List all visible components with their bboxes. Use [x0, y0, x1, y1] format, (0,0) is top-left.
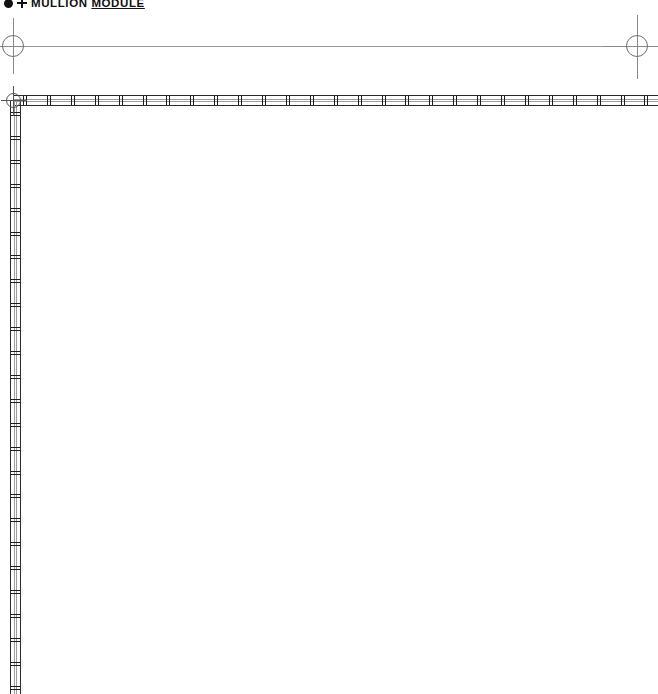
mullion-tick-mark: [11, 590, 20, 594]
mullion-tick-mark: [405, 96, 409, 105]
mullion-tick-mark: [11, 638, 20, 642]
mullion-tick-mark: [11, 518, 20, 522]
mullion-tick-mark: [597, 96, 601, 105]
vertical-mullion-run: [10, 100, 21, 694]
mullion-tick-mark: [11, 160, 20, 164]
mullion-tick-mark: [143, 96, 147, 105]
mullion-tick-mark: [11, 447, 20, 451]
mullion-tick-mark: [11, 303, 20, 307]
mullion-tick-mark: [11, 351, 20, 355]
mullion-tick-mark: [334, 96, 338, 105]
drawing-title-text: MULLION MODULE: [31, 0, 145, 9]
mullion-tick-mark: [11, 423, 20, 427]
mullion-tick-mark: [11, 399, 20, 403]
title-prefix: MULLION: [31, 0, 91, 9]
mullion-tick-mark: [477, 96, 481, 105]
mullion-tick-mark: [95, 96, 99, 105]
mullion-tick-mark: [11, 375, 20, 379]
grid-bubble-circle-icon: [626, 35, 648, 57]
mullion-tick-mark: [382, 96, 386, 105]
mullion-tick-mark: [262, 96, 266, 105]
mullion-tick-mark: [453, 96, 457, 105]
grid-bubble-circle-icon: [6, 93, 21, 108]
grid-bubble-circle-icon: [2, 35, 24, 57]
mullion-tick-mark: [214, 96, 218, 105]
mullion-tick-mark: [286, 96, 290, 105]
mullion-tick-mark: [47, 96, 51, 105]
drawing-title: MULLION MODULE: [4, 0, 145, 11]
mullion-tick-mark: [11, 566, 20, 570]
mullion-tick-mark: [644, 96, 648, 105]
mullion-tick-mark: [11, 327, 20, 331]
mullion-tick-mark: [11, 136, 20, 140]
mullion-tick-mark: [71, 96, 75, 105]
mullion-tick-mark: [11, 662, 20, 666]
mullion-tick-mark: [11, 279, 20, 283]
mullion-tick-mark: [429, 96, 433, 105]
mullion-tick-mark: [11, 184, 20, 188]
mullion-tick-mark: [11, 471, 20, 475]
mullion-tick-mark: [310, 96, 314, 105]
filled-dot-icon: [4, 0, 13, 8]
grid-datum-line: [13, 46, 638, 47]
mullion-tick-mark: [119, 96, 123, 105]
mullion-tick-mark: [190, 96, 194, 105]
title-underlined: MODULE: [91, 0, 144, 9]
drawing-canvas: MULLION MODULE: [0, 0, 658, 694]
mullion-tick-mark: [549, 96, 553, 105]
plus-icon: [17, 0, 27, 8]
mullion-tick-mark: [358, 96, 362, 105]
mullion-tick-mark: [238, 96, 242, 105]
mullion-tick-mark: [11, 232, 20, 236]
mullion-tick-mark: [525, 96, 529, 105]
mullion-tick-mark: [11, 494, 20, 498]
mullion-tick-mark: [11, 255, 20, 259]
mullion-tick-mark: [573, 96, 577, 105]
mullion-tick-mark: [11, 686, 20, 690]
mullion-tick-mark: [166, 96, 170, 105]
mullion-tick-mark: [621, 96, 625, 105]
mullion-tick-mark: [11, 614, 20, 618]
mullion-tick-mark: [11, 208, 20, 212]
horizontal-mullion-run: [13, 95, 658, 106]
mullion-tick-mark: [11, 542, 20, 546]
mullion-tick-mark: [501, 96, 505, 105]
